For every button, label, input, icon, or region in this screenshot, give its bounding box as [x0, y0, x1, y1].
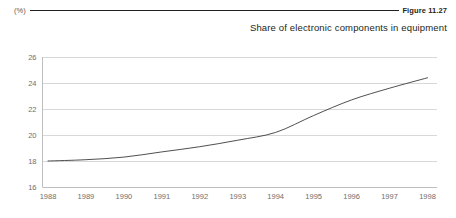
x-tick-label: 1990 [116, 192, 133, 201]
y-tick-label: 24 [28, 79, 36, 88]
y-axis-tick-labels: 161820222426 [28, 53, 36, 192]
x-tick-label: 1991 [154, 192, 171, 201]
x-tick-label: 1994 [267, 192, 284, 201]
y-tick-label: 26 [28, 53, 36, 62]
x-tick-label: 1998 [419, 192, 436, 201]
x-tick-label: 1992 [191, 192, 208, 201]
x-tick-label: 1995 [305, 192, 322, 201]
chart-gridlines [43, 58, 438, 188]
x-tick-label: 1989 [78, 192, 95, 201]
x-tick-label: 1996 [343, 192, 360, 201]
x-tick-label: 1993 [229, 192, 246, 201]
y-tick-label: 20 [28, 131, 36, 140]
chart-plot-area: 161820222426 198819891990199119921993199… [0, 0, 456, 218]
x-tick-label: 1988 [40, 192, 57, 201]
x-tick-label: 1997 [381, 192, 398, 201]
y-tick-label: 18 [28, 157, 36, 166]
x-axis-tick-labels: 1988198919901991199219931994199519961997… [40, 192, 436, 201]
line-chart-svg: 161820222426 198819891990199119921993199… [0, 0, 456, 218]
y-tick-label: 16 [28, 183, 36, 192]
y-tick-label: 22 [28, 105, 36, 114]
data-series-line [48, 78, 428, 161]
